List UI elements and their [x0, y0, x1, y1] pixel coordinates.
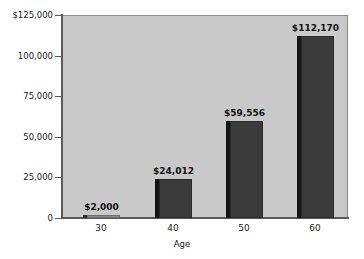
bar-front-face: [230, 121, 263, 218]
y-tick-mark: [55, 96, 62, 97]
bar-value-label: $2,000: [84, 203, 119, 212]
y-tick-mark: [55, 137, 62, 138]
y-tick-label: 50,000: [1, 133, 53, 142]
bar-age-50[interactable]: $59,556: [226, 121, 263, 218]
y-tick-label: 0: [1, 214, 53, 223]
bar-front-face: [301, 36, 334, 218]
y-tick-label: 25,000: [1, 173, 53, 182]
y-tick-label: 100,000: [1, 52, 53, 61]
y-axis-labels: $125,000 100,000 75,000 50,000 25,000 0: [0, 0, 53, 259]
x-tick-label-40: 40: [143, 224, 203, 233]
y-tick-label: $125,000: [1, 11, 53, 20]
y-tick-mark: [55, 15, 62, 16]
y-tick-mark: [55, 177, 62, 178]
bar-value-label: $112,170: [292, 24, 339, 33]
bar-value-label: $24,012: [153, 167, 194, 176]
y-tick-mark: [55, 218, 62, 219]
y-axis-line: [61, 14, 63, 219]
bar-age-40[interactable]: $24,012: [155, 179, 192, 218]
bar-front-face: [159, 179, 192, 218]
x-tick-label-50: 50: [214, 224, 274, 233]
bar-age-60[interactable]: $112,170: [297, 36, 334, 218]
x-tick-label-30: 30: [71, 224, 131, 233]
bar-chart: $125,000 100,000 75,000 50,000 25,000 0 …: [0, 0, 364, 259]
bar-age-30[interactable]: $2,000: [83, 215, 120, 218]
y-tick-mark: [55, 56, 62, 57]
bar-value-label: $59,556: [224, 109, 265, 118]
y-tick-label: 75,000: [1, 92, 53, 101]
bar-front-face: [87, 215, 120, 218]
x-tick-label-60: 60: [285, 224, 345, 233]
x-axis-title: Age: [0, 240, 364, 249]
